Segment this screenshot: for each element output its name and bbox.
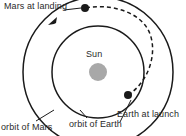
mars-orbit-direction-arrow-icon <box>48 17 57 25</box>
sun-body <box>89 63 107 81</box>
earth-body <box>124 91 132 99</box>
orbital-transfer-diagram: Mars at landing Sun orbit of Mars orbit … <box>0 0 186 136</box>
mars-at-landing-label: Mars at landing <box>4 1 67 11</box>
earth-at-launch-label: Earth at launch <box>117 109 179 119</box>
sun-label: Sun <box>86 49 102 59</box>
orbit-of-mars-leader-line <box>36 110 54 121</box>
mars-body <box>81 4 89 12</box>
orbit-of-mars-label: orbit of Mars <box>1 122 52 132</box>
orbit-of-earth-label: orbit of Earth <box>69 119 122 129</box>
